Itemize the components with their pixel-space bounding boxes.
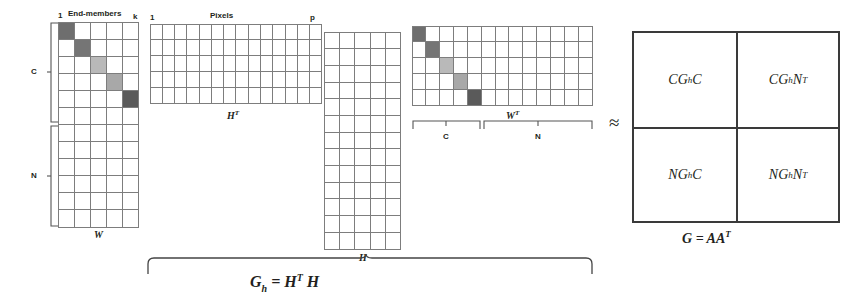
matrix-a-cell (122, 39, 139, 57)
matrix-h-cell (324, 215, 340, 233)
matrix-h-cell (339, 132, 355, 150)
matrix-wt-cell (564, 73, 579, 90)
matrix-a-cell (58, 90, 75, 108)
matrix-ht-cell (235, 87, 248, 104)
matrix-ht-cell (297, 87, 310, 104)
matrix-a-cell-shaded (58, 22, 75, 40)
matrix-wt-cell (550, 57, 565, 74)
matrix-a-cell (122, 192, 139, 210)
matrix-wt-cell (508, 41, 523, 58)
matrix-a-label-c: C (31, 68, 37, 76)
matrix-wt-cell (439, 89, 454, 106)
matrix-a-cell (90, 107, 107, 125)
matrix-h-cell (370, 165, 386, 183)
block-matrix-caption-lhs: G (682, 231, 692, 246)
matrix-a-top-label: End-members (68, 10, 121, 18)
matrix-a-cell (90, 158, 107, 176)
matrix-h-cell (354, 132, 370, 150)
matrix-h-cell (354, 182, 370, 200)
matrix-h-grid (324, 32, 401, 249)
gh-equation-rhs: H (303, 273, 319, 290)
matrix-wt-bottom-bracket (412, 118, 593, 134)
matrix-ht-cell (235, 55, 248, 72)
matrix-h-cell (370, 115, 386, 133)
matrix-a-cell (74, 73, 91, 91)
matrix-h-cell (385, 148, 401, 166)
matrix-wt-cell (508, 89, 523, 106)
matrix-a-cell-shaded (90, 56, 107, 74)
matrix-wt-cell (425, 57, 440, 74)
matrix-ht-cell (309, 55, 322, 72)
matrix-wt-cell (412, 89, 427, 106)
matrix-a-cell (122, 22, 139, 40)
matrix-ht-cell (309, 39, 322, 56)
matrix-ht-cell (309, 71, 322, 88)
block-cell-ngnt-prefix: N (769, 167, 778, 183)
matrix-h-cell (354, 165, 370, 183)
matrix-h-cell (370, 232, 386, 250)
matrix-ht-cell (211, 24, 224, 41)
matrix-h-cell (324, 48, 340, 66)
matrix-ht-cell (235, 71, 248, 88)
matrix-h-cell (370, 65, 386, 83)
matrix-wt-cell (550, 26, 565, 43)
approx-icon: ≈ (609, 113, 619, 132)
matrix-a-cell (106, 175, 123, 193)
matrix-a-cell (74, 192, 91, 210)
matrix-wt-cell (481, 73, 496, 90)
matrix-a-left-bracket (38, 22, 60, 228)
matrix-h-cell (370, 48, 386, 66)
matrix-ht-cell (223, 55, 236, 72)
gh-equation-lhs: G (250, 273, 262, 290)
matrix-h-cell (339, 232, 355, 250)
matrix-wt-cell (522, 73, 537, 90)
matrix-a-cell (90, 90, 107, 108)
matrix-wt-cell (522, 57, 537, 74)
matrix-h-cell (370, 132, 386, 150)
matrix-ht-cell (285, 24, 298, 41)
block-cell-cghc-suffix: C (692, 72, 701, 88)
block-matrix: CGhC CGhNT NGhC NGhNT (632, 31, 840, 223)
matrix-wt-cell (564, 26, 579, 43)
matrix-a-cell (74, 158, 91, 176)
matrix-ht-cell (199, 87, 212, 104)
matrix-h-cell (370, 182, 386, 200)
matrix-ht-cell (174, 87, 187, 104)
matrix-wt-cell-shaded (425, 41, 440, 58)
gh-brace (146, 254, 594, 276)
block-matrix-caption-eq: = AA (692, 231, 725, 246)
matrix-wt-cell (481, 41, 496, 58)
matrix-a-cell (74, 107, 91, 125)
matrix-wt-grid (412, 26, 592, 105)
matrix-ht-top-right-index: p (310, 14, 315, 22)
gh-equation: Gh = HT H (250, 272, 319, 294)
matrix-h-cell (370, 215, 386, 233)
matrix-wt-cell (453, 41, 468, 58)
matrix-h-cell (370, 82, 386, 100)
matrix-ht-cell (223, 87, 236, 104)
matrix-h-cell (354, 232, 370, 250)
matrix-a-cell (122, 175, 139, 193)
matrix-wt-cell (495, 57, 510, 74)
matrix-ht-cell (162, 39, 175, 56)
matrix-ht-cell (297, 24, 310, 41)
matrix-a-top-left-index: 1 (58, 12, 62, 20)
matrix-wt-cell (467, 73, 482, 90)
matrix-h-cell (354, 32, 370, 50)
matrix-wt-cell-shaded (453, 73, 468, 90)
matrix-h-cell (354, 215, 370, 233)
matrix-wt-cell (425, 89, 440, 106)
matrix-wt-cell (467, 57, 482, 74)
block-cell-cghnt-prefix: C (769, 72, 778, 88)
matrix-wt-cell (578, 89, 593, 106)
matrix-h-cell (385, 182, 401, 200)
matrix-a-cell (58, 175, 75, 193)
matrix-wt-cell (564, 89, 579, 106)
matrix-wt-cell (536, 73, 551, 90)
matrix-a-cell (58, 73, 75, 91)
matrix-a-cell (106, 124, 123, 142)
block-cell-nghc-prefix: N (668, 167, 677, 183)
matrix-wt-cell (439, 73, 454, 90)
matrix-ht-cell (260, 39, 273, 56)
matrix-ht-cell (199, 24, 212, 41)
